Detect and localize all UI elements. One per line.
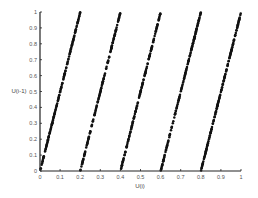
x-tick-label: 0.3	[96, 174, 104, 180]
y-tick-label: 0.5	[29, 89, 37, 95]
y-tick-label: 0.9	[29, 25, 37, 31]
x-tick-label: 0.9	[217, 174, 225, 180]
y-tick-label: 0.3	[29, 120, 37, 126]
y-tick-label: 0.8	[29, 41, 37, 47]
x-tick-label: 1	[239, 174, 242, 180]
x-tick-label: 0.4	[117, 174, 125, 180]
data-points	[39, 11, 242, 172]
y-tick-label: 0.2	[29, 136, 37, 142]
scatter-chart: 00.10.20.30.40.50.60.70.80.91 00.10.20.3…	[0, 0, 258, 198]
x-tick-label: 0	[38, 174, 41, 180]
x-tick-label: 0.8	[197, 174, 205, 180]
x-tick-label: 0.5	[137, 174, 145, 180]
x-tick-label: 0.2	[76, 174, 84, 180]
y-tick-label: 0.1	[29, 152, 37, 158]
y-tick-label: 0.7	[29, 57, 37, 63]
x-axis-label: U(i)	[135, 183, 145, 189]
y-tick-label: 0	[34, 168, 37, 174]
y-tick-label: 0.6	[29, 73, 37, 79]
y-tick-label: 1	[34, 9, 37, 15]
x-tick-label: 0.1	[56, 174, 64, 180]
x-tick-label: 0.7	[177, 174, 185, 180]
y-tick-label: 0.4	[29, 104, 37, 110]
y-axis-label: U(i-1)	[12, 88, 27, 94]
x-tick-label: 0.6	[157, 174, 165, 180]
